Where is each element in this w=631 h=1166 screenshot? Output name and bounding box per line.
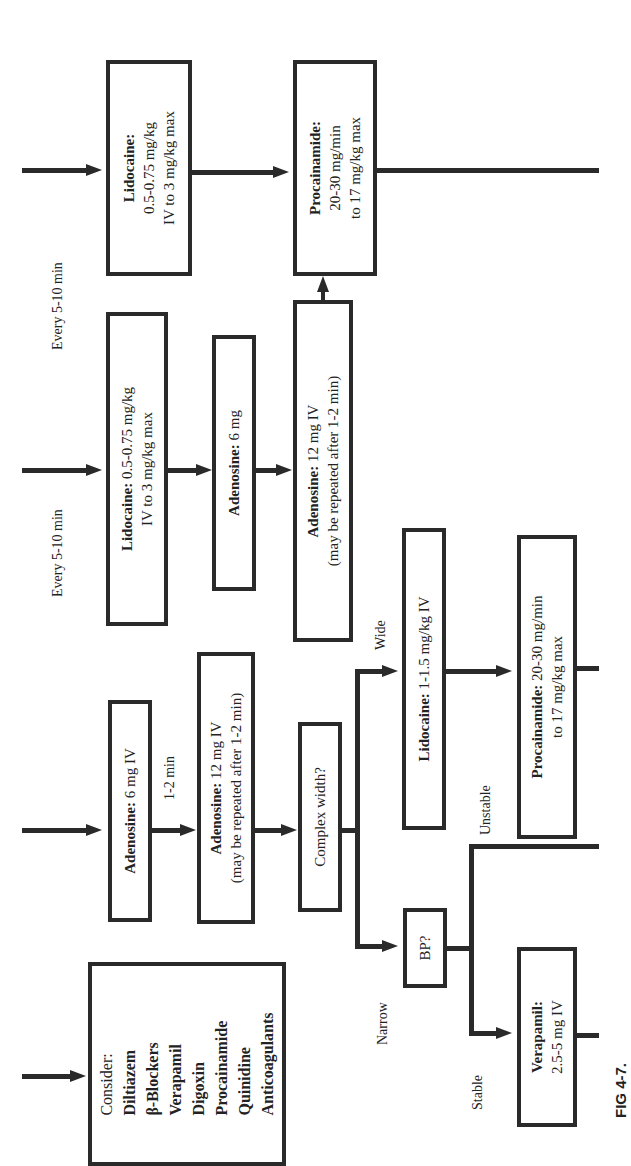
arrowhead	[496, 1027, 512, 1039]
lidocaine-box-col2: Lidocaine: 0.5-0.75 mg/kg IV to 3 mg/kg …	[106, 312, 168, 626]
connector	[168, 468, 198, 473]
interval-label-col2: Every 5-10 min	[50, 509, 66, 597]
procainamide-box-col3: Procainamide: 20-30 mg/min to 17 mg/kg m…	[517, 535, 577, 839]
adenosine-12mg-box-col2: Adenosine: 12 mg IV (may be repeated aft…	[293, 300, 353, 642]
figure-label: FIG 4-7.	[612, 1063, 629, 1118]
connector	[377, 168, 599, 173]
interval-label-col3: 1-2 min	[162, 756, 178, 800]
connector	[22, 468, 88, 473]
connector	[192, 170, 276, 175]
arrowhead	[496, 665, 512, 677]
lidocaine-box-col1: Lidocaine: 0.5-0.75 mg/kg IV to 3 mg/kg …	[106, 60, 192, 276]
consider-item: Digoxin	[190, 1062, 207, 1115]
connector	[22, 168, 88, 173]
adenosine-12mg-box-col3: Adenosine: 12 mg IV (may be repeated aft…	[197, 652, 255, 924]
connector	[22, 1074, 72, 1079]
connector	[469, 844, 599, 849]
consider-item: Verapamil	[167, 1044, 184, 1115]
consider-item: β-Blockers	[144, 1042, 161, 1115]
arrowhead	[276, 464, 292, 476]
arrowhead	[281, 824, 297, 836]
consider-item: Quinidine	[236, 1047, 253, 1115]
narrow-label: Narrow	[375, 1002, 391, 1045]
consider-item: Diltiazem	[121, 1050, 138, 1116]
connector	[469, 844, 474, 1036]
connector	[469, 1031, 499, 1036]
connector	[446, 669, 498, 674]
arrowhead	[86, 464, 102, 476]
verapamil-box: Verapamil: 2.5-5 mg IV	[517, 947, 577, 1127]
arrowhead	[180, 824, 196, 836]
connector	[355, 669, 360, 949]
bp-decision-box: BP?	[403, 908, 447, 988]
connector	[577, 1033, 599, 1038]
unstable-label: Unstable	[478, 785, 494, 835]
consider-box: Consider: Diltiazem β-Blockers Verapamil…	[88, 962, 286, 1166]
wide-label: Wide	[373, 620, 389, 650]
connector	[152, 828, 182, 833]
connector	[355, 944, 385, 949]
complex-width-box: Complex width?	[298, 722, 342, 912]
consider-item: Procainamide	[213, 1021, 230, 1116]
drug-name: Lidocaine:	[121, 134, 137, 202]
lidocaine-box-col3: Lidocaine: 1-1.5 mg/kg IV	[402, 528, 446, 830]
connector	[256, 468, 278, 473]
arrowhead	[273, 166, 289, 178]
arrowhead	[317, 276, 329, 292]
arrowhead	[382, 940, 398, 952]
arrowhead	[70, 1070, 86, 1082]
procainamide-box-col1: Procainamide: 20-30 mg/min to 17 mg/kg m…	[293, 60, 377, 276]
connector	[255, 828, 283, 833]
arrowhead	[382, 665, 398, 677]
arrowhead	[86, 824, 102, 836]
adenosine-6mg-box-col3: Adenosine: 6 mg IV	[108, 700, 152, 922]
connector	[355, 669, 385, 674]
arrowhead	[196, 464, 212, 476]
consider-item: Anticoagulants	[259, 1012, 276, 1115]
stable-label: Stable	[470, 1075, 486, 1110]
arrowhead	[86, 164, 102, 176]
connector	[577, 666, 599, 671]
connector	[22, 828, 88, 833]
interval-label-col1: Every 5-10 min	[50, 262, 66, 350]
adenosine-6mg-box-col2: Adenosine: 6 mg	[212, 335, 256, 591]
